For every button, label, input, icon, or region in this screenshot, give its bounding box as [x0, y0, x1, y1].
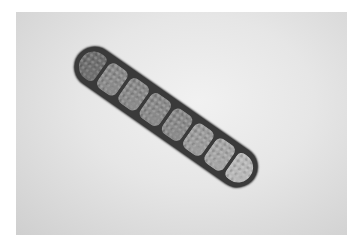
micrograph-photo	[16, 12, 347, 235]
spore	[67, 39, 265, 195]
